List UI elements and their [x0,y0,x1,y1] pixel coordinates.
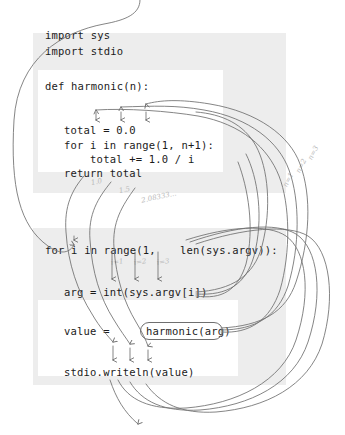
return-total-line: return total [64,167,142,180]
total-init-line: total = 0.0 [64,124,136,137]
harmonic-call-highlight-ring [140,322,223,340]
argument-label-n3: n=3 [306,145,320,162]
main-for-line-right: len(sys.argv)): [180,244,278,257]
for-range-line: for i in range(1, n+1): [64,139,214,152]
main-for-line-left: for i in range(1, [45,244,156,257]
call-trace-figure: import sys import stdio def harmonic(n):… [0,0,345,435]
value-assignment-line: value = [64,325,110,338]
argument-label-n2: n=2 [294,158,308,175]
import-sys-line: import sys [45,29,110,42]
stdio-writeln-line: stdio.writeln(value) [64,366,194,379]
total-accumulate-line: total += 1.0 / i [64,153,194,166]
return-value-label-2: 1.5 [118,185,131,195]
def-harmonic-line: def harmonic(n): [45,80,149,93]
import-stdio-line: import stdio [45,45,123,58]
arg-assignment-line: arg = int(sys.argv[i]) [64,286,207,299]
